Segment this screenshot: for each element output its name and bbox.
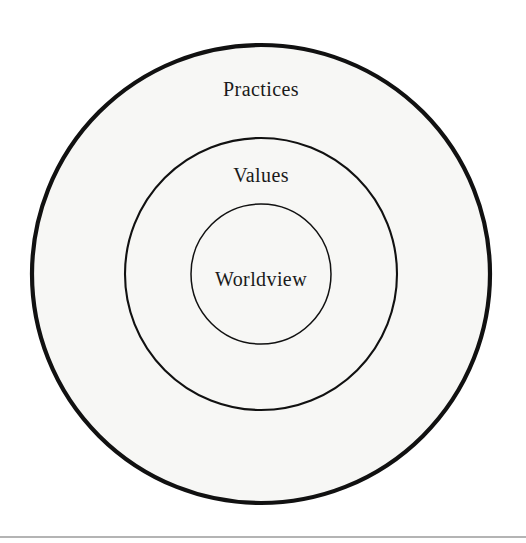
ring-label-practices: Practices — [223, 78, 299, 100]
ring-label-values: Values — [233, 164, 289, 186]
figure-root: Practices Values Worldview — [0, 0, 526, 543]
concentric-circles-diagram: Practices Values Worldview — [0, 0, 526, 543]
ring-label-worldview: Worldview — [215, 268, 307, 290]
